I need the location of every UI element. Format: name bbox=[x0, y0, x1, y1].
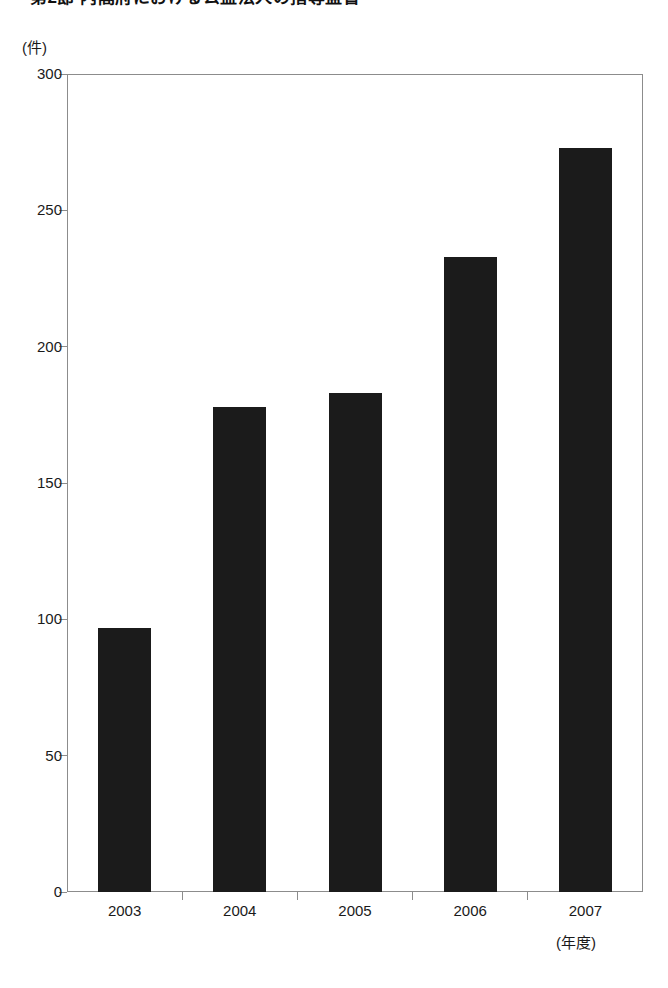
x-tick-label-2004: 2004 bbox=[182, 903, 297, 918]
x-axis-unit-label: (年度) bbox=[556, 931, 596, 952]
x-tick-mark bbox=[182, 892, 183, 900]
bar-2005 bbox=[329, 393, 382, 892]
bar-2007 bbox=[559, 148, 612, 892]
x-tick-mark bbox=[527, 892, 528, 900]
y-tick-label: 300 bbox=[2, 66, 62, 81]
y-tick-label: 100 bbox=[2, 611, 62, 626]
x-tick-label-2006: 2006 bbox=[413, 903, 528, 918]
y-tick-label: 50 bbox=[2, 748, 62, 763]
y-tick-label: 150 bbox=[2, 475, 62, 490]
bar-2004 bbox=[213, 407, 266, 892]
bar-2003 bbox=[98, 628, 151, 892]
x-tick-label-2005: 2005 bbox=[297, 903, 412, 918]
y-tick-label: 0 bbox=[2, 884, 62, 899]
bar-chart: 050100150200250300 20032004200520062007 bbox=[0, 0, 668, 988]
bar-2006 bbox=[444, 257, 497, 892]
x-tick-label-2003: 2003 bbox=[67, 903, 182, 918]
x-tick-mark bbox=[412, 892, 413, 900]
x-tick-mark bbox=[297, 892, 298, 900]
y-tick-label: 200 bbox=[2, 339, 62, 354]
y-tick-label: 250 bbox=[2, 202, 62, 217]
x-tick-label-2007: 2007 bbox=[528, 903, 643, 918]
